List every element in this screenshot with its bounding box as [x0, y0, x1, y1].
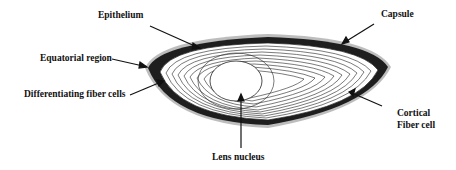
label-differentiating-fiber-cells: Differentiating fiber cells: [24, 89, 126, 100]
lens-diagram: Epithelium Capsule Equatorial region Dif…: [0, 0, 456, 170]
label-fiber-cell: Fiber cell: [397, 120, 435, 131]
label-capsule: Capsule: [381, 9, 414, 20]
label-epithelium: Epithelium: [98, 10, 143, 21]
lens-drawing: [0, 0, 456, 170]
label-equatorial-region: Equatorial region: [40, 53, 112, 64]
label-cortical: Cortical: [397, 108, 430, 119]
lens-nucleus: [210, 61, 262, 101]
label-lens-nucleus: Lens nucleus: [212, 152, 265, 163]
